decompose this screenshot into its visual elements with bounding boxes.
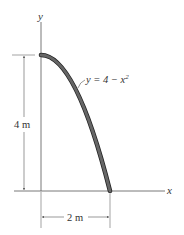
height-label: 4 m [14, 119, 30, 130]
curve-equation: y = 4 − x2 [85, 73, 129, 85]
equation-leader [78, 80, 85, 88]
equation-main: y = 4 − x [85, 74, 126, 85]
y-axis-label: y [37, 10, 43, 22]
equation-exponent: 2 [125, 73, 129, 81]
diagram-canvas: y x y = 4 − x2 4 m 2 m [0, 0, 184, 235]
x-axis-label: x [166, 184, 172, 196]
width-label: 2 m [67, 212, 83, 223]
